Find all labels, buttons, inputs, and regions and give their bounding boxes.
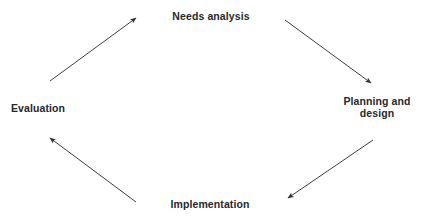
arrow-evaluation-to-needs-analysis bbox=[50, 18, 136, 81]
node-label-planning-design: Planning and design bbox=[340, 95, 414, 119]
arrow-planning-design-to-implementation bbox=[288, 140, 373, 198]
node-label-evaluation: Evaluation bbox=[11, 102, 75, 114]
node-label-needs-analysis: Needs analysis bbox=[168, 10, 254, 22]
process-cycle-diagram: Needs analysis Planning and design Imple… bbox=[0, 0, 421, 223]
arrow-needs-analysis-to-planning-design bbox=[285, 20, 371, 83]
node-label-implementation: Implementation bbox=[163, 198, 257, 210]
arrow-implementation-to-evaluation bbox=[50, 138, 136, 202]
